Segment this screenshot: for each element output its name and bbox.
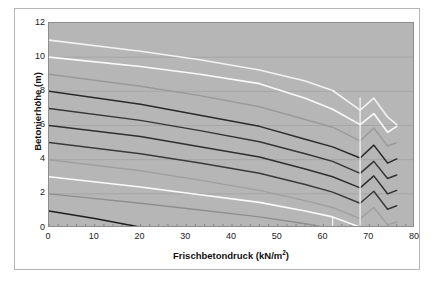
x-tick-label-50: 50 bbox=[264, 232, 290, 241]
x-tick-label-30: 30 bbox=[172, 232, 198, 241]
x-tick-label-60: 60 bbox=[310, 232, 336, 241]
x-tick-label-70: 70 bbox=[355, 232, 381, 241]
y-axis-ticks: 024681012 bbox=[14, 22, 45, 227]
series-line-h=11m bbox=[49, 40, 397, 125]
x-tick-label-80: 80 bbox=[401, 232, 427, 241]
y-tick-label-12: 12 bbox=[19, 18, 45, 27]
y-tick-label-2: 2 bbox=[19, 188, 45, 197]
x-tick-label-40: 40 bbox=[218, 232, 244, 241]
x-tick-label-20: 20 bbox=[127, 232, 153, 241]
x-axis-title-tail: ) bbox=[286, 250, 289, 261]
x-axis-ticks: 01020304050607080 bbox=[48, 232, 414, 246]
x-tick-label-0: 0 bbox=[35, 232, 61, 241]
series-line-h=4m bbox=[49, 160, 397, 225]
plot-area bbox=[48, 22, 414, 227]
chart-figure: Betonierhöhe (m) 024681012 0102030405060… bbox=[0, 0, 435, 284]
x-tick-label-10: 10 bbox=[81, 232, 107, 241]
y-tick-label-8: 8 bbox=[19, 86, 45, 95]
y-tick-label-6: 6 bbox=[19, 120, 45, 129]
series-line-h=1m bbox=[49, 211, 145, 227]
plot-canvas bbox=[49, 23, 414, 227]
series-line-h=8m bbox=[49, 91, 397, 163]
series-line-h=10m bbox=[49, 57, 397, 132]
y-tick-label-0: 0 bbox=[19, 223, 45, 232]
x-axis-title: Frischbetondruck (kN/m2) bbox=[48, 250, 414, 261]
y-tick-label-10: 10 bbox=[19, 52, 45, 61]
series-line-h=2m bbox=[49, 194, 328, 227]
x-axis-title-main: Frischbetondruck (kN/m bbox=[173, 250, 282, 261]
y-tick-label-4: 4 bbox=[19, 154, 45, 163]
